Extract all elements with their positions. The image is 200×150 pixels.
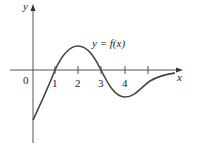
tick-label-3: 3 xyxy=(98,77,104,89)
function-graph: 0 1 2 3 4 x y y = f(x) xyxy=(0,0,200,150)
tick-label-2: 2 xyxy=(75,77,81,89)
y-axis-arrow-icon xyxy=(31,4,36,11)
tick-label-4: 4 xyxy=(122,77,128,89)
curve-label: y = f(x) xyxy=(91,37,125,50)
y-axis-label: y xyxy=(22,0,28,12)
origin-label: 0 xyxy=(23,74,29,86)
tick-label-1: 1 xyxy=(52,77,58,89)
x-axis-label: x xyxy=(176,71,182,83)
